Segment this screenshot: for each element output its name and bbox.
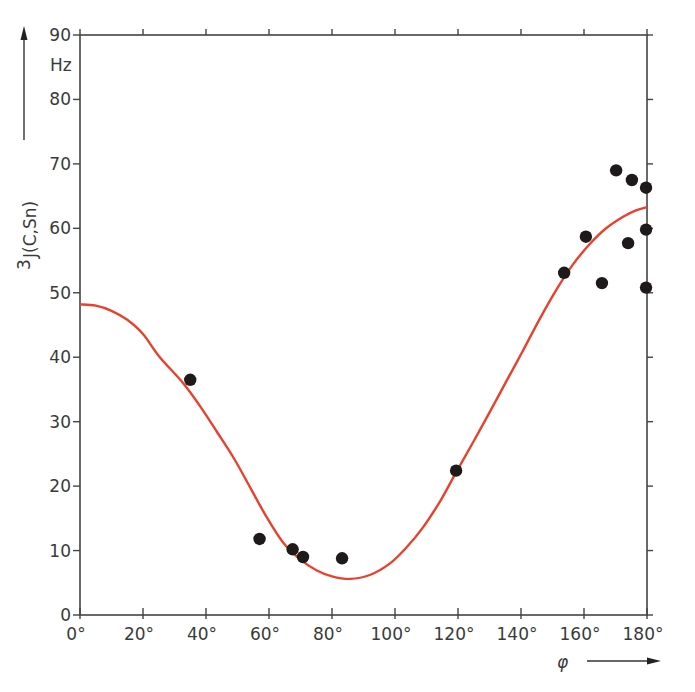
data-point [622,237,634,249]
y-axis-arrow-icon [21,26,28,140]
x-tick-label: 180° [623,624,664,644]
data-point [580,231,592,243]
x-tick-label: 160° [560,624,601,644]
data-points [184,164,652,564]
data-point [626,174,638,186]
x-axis-title: φ [557,652,569,672]
x-tick-label: 120° [434,624,475,644]
data-point [640,223,652,235]
y-axis-title-superscript: 3 [14,259,34,270]
chart: 0°20°40°60°80°100°120°140°160°180° 01020… [0,0,695,692]
data-point [184,374,196,386]
data-point [450,464,462,476]
y-tick-label: 30 [49,412,71,432]
y-tick-label: 80 [49,89,71,109]
y-tick-label: 50 [49,283,71,303]
y-tick-label: 40 [49,347,71,367]
x-tick-label: 80° [313,624,343,644]
y-tick-label: 0 [60,605,71,625]
x-axis-arrow-icon [587,658,661,665]
data-point [596,277,608,289]
data-point [336,552,348,564]
x-tick-label: 0° [66,624,85,644]
y-tick-label: 20 [49,476,71,496]
data-point [253,533,265,545]
plot-frame [80,35,647,615]
y-axis-ticks: 0102030405060708090 [49,25,653,625]
data-point [286,543,298,555]
fit-curve [80,207,647,579]
y-tick-label: 90 [49,25,71,45]
x-tick-label: 40° [187,624,217,644]
data-point [558,267,570,279]
x-tick-label: 60° [250,624,280,644]
data-point [610,164,622,176]
y-tick-label: 60 [49,218,71,238]
data-point [640,182,652,194]
data-point [297,551,309,563]
y-unit-label: Hz [50,55,72,75]
data-point [640,281,652,293]
x-tick-label: 140° [497,624,538,644]
y-axis-title-text: J(C,Sn) [20,201,40,259]
y-tick-label: 10 [49,541,71,561]
x-axis-ticks: 0°20°40°60°80°100°120°140°160°180° [66,29,663,644]
y-axis-title: 3 J(C,Sn) [14,201,40,270]
plot-border [80,35,647,615]
x-tick-label: 20° [124,624,154,644]
y-tick-label: 70 [49,154,71,174]
x-tick-label: 100° [371,624,412,644]
